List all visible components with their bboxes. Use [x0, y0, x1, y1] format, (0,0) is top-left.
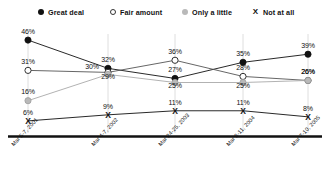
- data-point-label: 25%: [236, 82, 250, 89]
- data-point-label: 8%: [303, 105, 313, 112]
- data-point-label: 31%: [21, 58, 35, 65]
- data-point-label: 25%: [168, 82, 182, 89]
- data-point-label: 29%: [101, 73, 115, 80]
- data-point-marker: [25, 98, 31, 104]
- data-point-marker: [305, 51, 311, 57]
- data-point-label: 27%: [168, 66, 182, 73]
- data-point-label: 46%: [21, 28, 35, 35]
- data-point-marker: [305, 77, 311, 83]
- data-point-marker: X: [172, 106, 178, 116]
- data-point-label: 39%: [301, 42, 315, 49]
- data-point-label: 6%: [23, 109, 33, 116]
- data-point-label: 9%: [103, 103, 113, 110]
- line-chart: Great deal Fair amount Only a little X N…: [0, 0, 330, 187]
- data-point-label: 11%: [168, 99, 181, 106]
- data-point-marker: [25, 37, 31, 43]
- data-point-label: 36%: [168, 48, 182, 55]
- series-line: [28, 111, 308, 121]
- data-point-label: 32%: [101, 56, 115, 63]
- data-point-label: 26%: [301, 68, 315, 75]
- plot-area: XXXXX: [0, 0, 330, 187]
- data-point-label: 11%: [236, 99, 249, 106]
- data-point-marker: [240, 73, 246, 79]
- data-point-label: 16%: [21, 88, 35, 95]
- data-point-marker: X: [105, 110, 111, 120]
- data-point-label: 28%: [236, 64, 250, 71]
- data-point-label: 30%: [85, 63, 99, 70]
- data-point-marker: X: [240, 106, 246, 116]
- data-point-marker: [25, 67, 31, 73]
- data-point-label: 35%: [236, 50, 250, 57]
- data-point-marker: [172, 57, 178, 63]
